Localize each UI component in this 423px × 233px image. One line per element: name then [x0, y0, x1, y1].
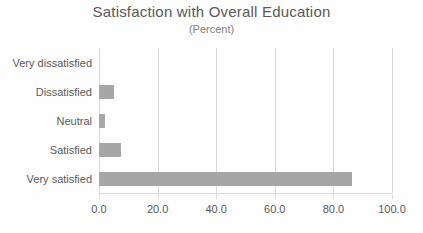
- x-tick-label-60: 60.0: [250, 203, 300, 215]
- x-tick-label-0: 0.0: [74, 203, 124, 215]
- x-tick-label-100: 100.0: [367, 203, 417, 215]
- x-tick-mark-80: [333, 194, 334, 199]
- x-tick-mark-60: [275, 194, 276, 199]
- bar-row-dissatisfied: [99, 77, 392, 106]
- bar-row-satisfied: [99, 135, 392, 164]
- y-label-satisfied: Satisfied: [0, 135, 92, 164]
- bar-row-very-dissatisfied: [99, 48, 392, 77]
- x-tick-label-20: 20.0: [133, 203, 183, 215]
- bar-row-neutral: [99, 106, 392, 135]
- bar-satisfied: [99, 143, 121, 157]
- bar-neutral: [99, 114, 105, 128]
- chart-canvas: Satisfaction with Overall Education (Per…: [0, 0, 423, 233]
- plot-area: [99, 48, 392, 194]
- y-axis-labels: Very dissatisfiedDissatisfiedNeutralSati…: [0, 48, 92, 193]
- bar-very-satisfied: [99, 172, 352, 186]
- bar-row-very-satisfied: [99, 164, 392, 193]
- y-label-dissatisfied: Dissatisfied: [0, 77, 92, 106]
- x-tick-mark-40: [216, 194, 217, 199]
- x-tick-mark-0: [99, 194, 100, 199]
- x-tick-label-80: 80.0: [308, 203, 358, 215]
- y-label-neutral: Neutral: [0, 106, 92, 135]
- x-tick-mark-20: [158, 194, 159, 199]
- gridline-100: [392, 48, 393, 193]
- chart-subtitle: (Percent): [0, 23, 423, 35]
- y-label-very-dissatisfied: Very dissatisfied: [0, 48, 92, 77]
- y-label-very-satisfied: Very satisfied: [0, 164, 92, 193]
- x-tick-label-40: 40.0: [191, 203, 241, 215]
- bar-rows: [99, 48, 392, 193]
- chart-title: Satisfaction with Overall Education: [0, 3, 423, 20]
- x-tick-mark-100: [392, 194, 393, 199]
- bar-dissatisfied: [99, 85, 114, 99]
